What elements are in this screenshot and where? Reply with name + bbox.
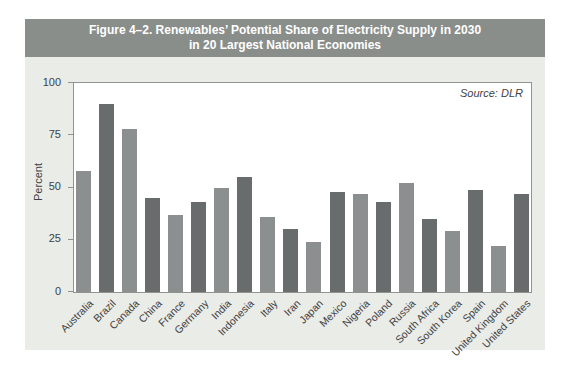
bar-south-korea (445, 231, 460, 292)
bar-united-states (514, 194, 529, 292)
x-axis-label-italy: Italy (257, 297, 279, 319)
bar-united-kingdom (491, 246, 506, 292)
chart-plot-area: Source: DLR (73, 82, 532, 293)
y-tick-0: 0 (55, 285, 61, 298)
bar-indonesia (237, 177, 252, 292)
bars-container (76, 83, 529, 292)
bar-india (214, 188, 229, 293)
y-tick-25: 25 (49, 232, 61, 245)
figure-title-line1: Figure 4–2. Renewables’ Potential Share … (25, 23, 545, 38)
y-tick-100: 100 (43, 76, 61, 89)
bar-germany (191, 202, 206, 292)
y-axis-label: Percent (32, 157, 44, 207)
x-axis-label-australia: Australia (58, 297, 95, 334)
bar-mexico (330, 192, 345, 292)
figure-panel: Figure 4–2. Renewables’ Potential Share … (25, 19, 545, 350)
figure-title-line2: in 20 Largest National Economies (25, 38, 545, 53)
bar-iran (283, 229, 298, 292)
y-tick-50: 50 (49, 180, 61, 193)
bar-spain (468, 190, 483, 292)
bar-brazil (99, 104, 114, 292)
x-axis-labels: AustraliaBrazilCanadaChinaFranceGermanyI… (73, 295, 530, 350)
bar-russia (399, 183, 414, 292)
bar-japan (306, 242, 321, 292)
bar-china (145, 198, 160, 292)
figure-title: Figure 4–2. Renewables’ Potential Share … (25, 19, 545, 57)
bar-poland (376, 202, 391, 292)
bar-italy (260, 217, 275, 292)
bar-australia (76, 171, 91, 292)
bar-nigeria (353, 194, 368, 292)
bar-canada (122, 129, 137, 292)
bar-france (168, 215, 183, 292)
bar-south-africa (422, 219, 437, 292)
y-tick-75: 75 (49, 128, 61, 141)
